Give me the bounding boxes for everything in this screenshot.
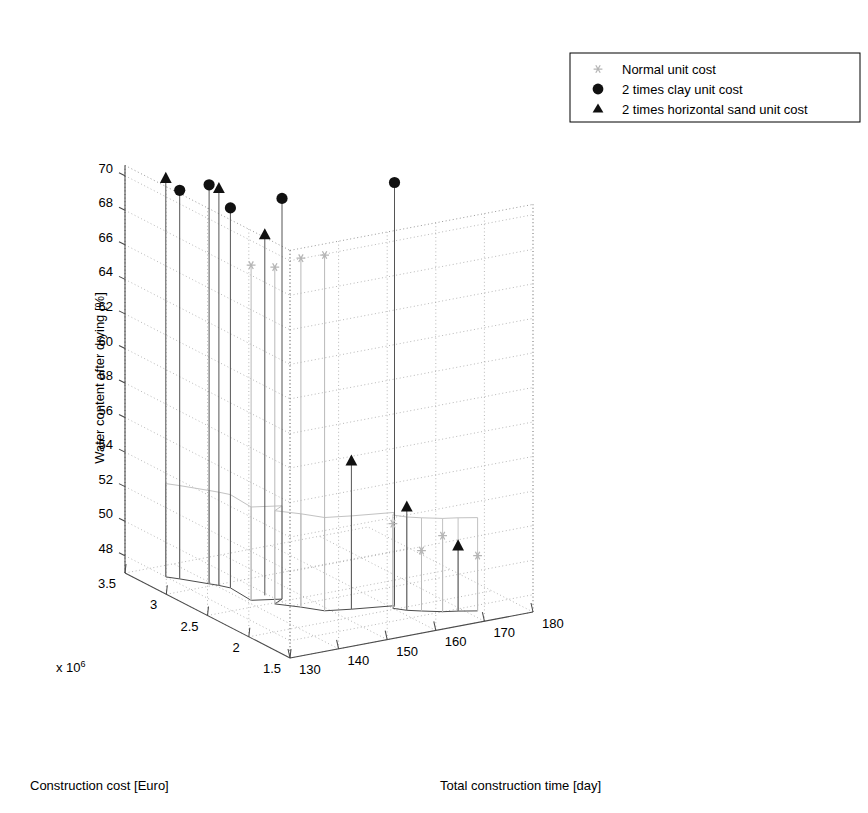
x-axis-exponent-sup: 6 — [81, 659, 86, 669]
x-axis-exponent-base: x 10 — [56, 660, 81, 675]
grid-line-wall-right-z — [290, 353, 533, 399]
circle-marker-icon — [593, 84, 604, 95]
legend-label-0: Normal unit cost — [622, 62, 716, 77]
circle-marker — [225, 202, 236, 213]
x-tick-label: 2.5 — [180, 619, 198, 634]
ribbon-lower-edge — [166, 577, 478, 612]
grid-line-floor-y — [222, 555, 387, 640]
grid-line-wall-right-z — [290, 249, 533, 295]
y-tick-label: 180 — [542, 616, 564, 631]
z-axis-tick — [119, 553, 125, 556]
z-axis-tick — [119, 449, 125, 452]
z-axis-tick — [119, 380, 125, 383]
x-tick-label: 1.5 — [263, 661, 281, 676]
triangle-marker — [160, 172, 172, 183]
x-tick-label: 3 — [150, 597, 157, 612]
legend-label-2: 2 times horizontal sand unit cost — [622, 102, 808, 117]
circle-marker — [174, 185, 185, 196]
grid-line-floor-x — [249, 591, 492, 637]
z-axis-tick — [119, 207, 125, 210]
z-axis-tick — [119, 415, 125, 418]
triangle-marker — [401, 501, 413, 512]
legend-label-1: 2 times clay unit cost — [622, 82, 743, 97]
grid-line-wall-right-z — [290, 215, 533, 261]
triangle-marker — [213, 182, 225, 193]
ribbon-layer — [166, 484, 478, 612]
z-axis-tick — [119, 346, 125, 349]
grid-line-wall-right-z — [290, 284, 533, 330]
grid-line-wall-right-z — [290, 457, 533, 503]
stems-layer — [166, 178, 478, 612]
z-tick-label: 70 — [99, 161, 113, 176]
tick-labels-layer: 4850525456586062646668701.522.533.513014… — [98, 161, 564, 677]
grid-line-wall-right-z — [290, 560, 533, 606]
y-tick-label: 150 — [396, 644, 418, 659]
circle-marker — [204, 179, 215, 190]
circle-marker — [389, 177, 400, 188]
x-tick-label: 2 — [233, 640, 240, 655]
grid-line-floor-x — [166, 548, 409, 594]
markers-layer — [160, 172, 482, 560]
z-tick-label: 52 — [99, 472, 113, 487]
z-axis-tick — [119, 484, 125, 487]
grid-line-floor-x — [208, 570, 451, 616]
grid-line-wall-right-z — [290, 388, 533, 434]
z-axis-tick — [119, 173, 125, 176]
z-tick-label: 66 — [99, 230, 113, 245]
triangle-marker — [259, 228, 271, 239]
legend[interactable]: Normal unit cost 2 times clay unit cost … — [570, 53, 860, 122]
z-tick-label: 64 — [99, 264, 113, 279]
ribbon-upper-edge — [166, 484, 478, 519]
figure-canvas: 4850525456586062646668701.522.533.513014… — [0, 0, 868, 813]
z-axis-tick — [119, 276, 125, 279]
grid-line-wall-right-z — [290, 491, 533, 537]
z-tick-label: 68 — [99, 195, 113, 210]
circle-marker — [276, 193, 287, 204]
z-tick-label: 50 — [99, 506, 113, 521]
z-axis-tick — [119, 311, 125, 314]
x-tick-label: 3.5 — [98, 576, 116, 591]
grid-layer — [125, 165, 533, 658]
legend-entry-2[interactable]: 2 times horizontal sand unit cost — [593, 102, 808, 117]
y-tick-label: 170 — [493, 625, 515, 640]
grid-line-wall-right-z — [290, 422, 533, 468]
axes-layer — [119, 165, 533, 658]
triangle-marker — [452, 539, 464, 550]
x-axis-label: Construction cost [Euro] — [30, 778, 169, 793]
x-axis-exponent: x 106 — [56, 659, 86, 675]
triangle-marker — [346, 454, 358, 465]
grid-line-floor-x — [125, 527, 368, 573]
z-axis-label: Water content after drying [%] — [92, 292, 107, 463]
z-tick-label: 48 — [99, 541, 113, 556]
y-axis-label: Total construction time [day] — [440, 778, 601, 793]
y-tick-label: 140 — [348, 653, 370, 668]
grid-line-wall-right-z — [290, 526, 533, 572]
axis-labels-layer: Water content after drying [%] Construct… — [30, 292, 601, 793]
grid-line-wall-right-z — [290, 318, 533, 364]
z-axis-tick — [119, 518, 125, 521]
box-edge-top-right — [290, 204, 533, 250]
grid-line-floor-y — [174, 564, 339, 649]
y-tick-label: 130 — [299, 662, 321, 677]
y-tick-label: 160 — [445, 634, 467, 649]
z-axis-tick — [119, 242, 125, 245]
